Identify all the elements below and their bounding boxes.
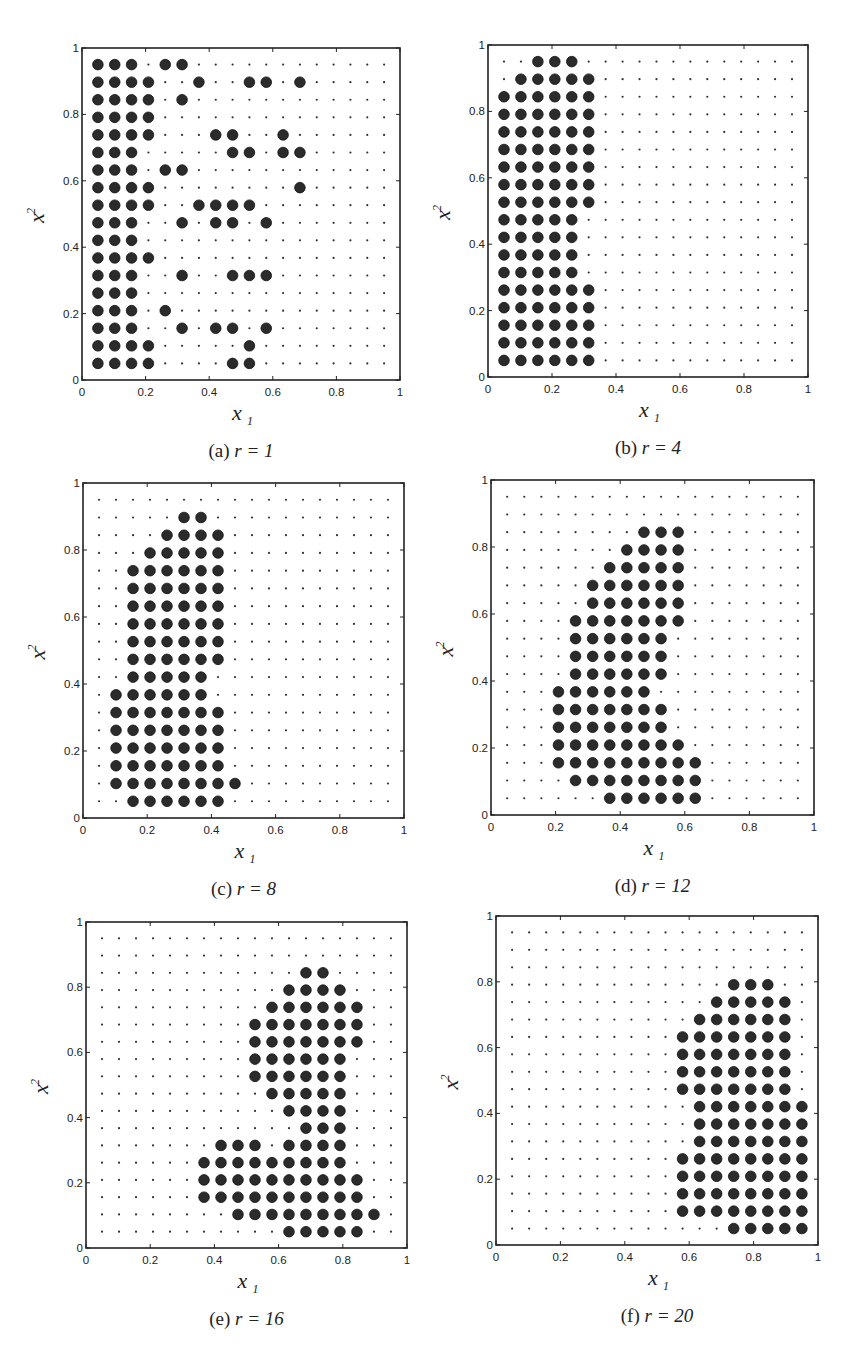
filled-point xyxy=(728,1032,739,1043)
filled-point xyxy=(763,1136,774,1147)
svg-text:1: 1 xyxy=(663,1279,669,1293)
filled-point xyxy=(797,1223,808,1234)
filled-point xyxy=(728,1066,739,1077)
x-tick-label: 0.8 xyxy=(746,1251,762,1263)
filled-point xyxy=(711,1136,722,1147)
caption-letter: (f) xyxy=(621,1305,645,1326)
filled-point xyxy=(763,1101,774,1112)
filled-point xyxy=(677,1206,688,1217)
filled-point xyxy=(763,1032,774,1043)
filled-point xyxy=(694,1171,705,1182)
filled-point xyxy=(711,1188,722,1199)
filled-point xyxy=(780,1171,791,1182)
filled-point xyxy=(745,1154,756,1165)
x-tick-label: 0.4 xyxy=(617,1251,634,1263)
filled-point xyxy=(728,1119,739,1130)
filled-point xyxy=(711,1171,722,1182)
filled-point xyxy=(745,1206,756,1217)
filled-point xyxy=(694,1154,705,1165)
x-tick-label: 0 xyxy=(493,1251,499,1263)
filled-point xyxy=(728,979,739,990)
filled-point xyxy=(780,997,791,1008)
filled-point xyxy=(780,1188,791,1199)
filled-point xyxy=(797,1136,808,1147)
filled-point xyxy=(711,1049,722,1060)
filled-point xyxy=(694,1049,705,1060)
y-tick-label: 1 xyxy=(487,910,493,922)
filled-point xyxy=(694,1136,705,1147)
filled-point xyxy=(745,1171,756,1182)
filled-point xyxy=(745,1066,756,1077)
filled-point xyxy=(763,1206,774,1217)
filled-point xyxy=(694,1101,705,1112)
filled-point xyxy=(780,1154,791,1165)
filled-point xyxy=(797,1154,808,1165)
filled-point xyxy=(745,1032,756,1043)
filled-point xyxy=(677,1049,688,1060)
filled-point xyxy=(780,1049,791,1060)
filled-point xyxy=(763,1014,774,1025)
filled-point xyxy=(677,1032,688,1043)
filled-point xyxy=(763,979,774,990)
filled-point xyxy=(677,1154,688,1165)
filled-point xyxy=(711,1119,722,1130)
filled-point xyxy=(780,1136,791,1147)
filled-point xyxy=(711,1206,722,1217)
filled-point xyxy=(711,997,722,1008)
filled-point xyxy=(728,1223,739,1234)
filled-point xyxy=(677,1171,688,1182)
x-tick-label: 0.6 xyxy=(681,1251,697,1263)
filled-point xyxy=(745,1223,756,1234)
filled-point xyxy=(780,1119,791,1130)
filled-point xyxy=(728,1014,739,1025)
y-tick-label: 0.4 xyxy=(477,1107,494,1119)
filled-point xyxy=(745,1014,756,1025)
filled-point xyxy=(677,1188,688,1199)
filled-point xyxy=(728,1154,739,1165)
filled-point xyxy=(745,997,756,1008)
filled-point xyxy=(797,1171,808,1182)
filled-point xyxy=(694,1188,705,1199)
filled-point xyxy=(745,1101,756,1112)
filled-point xyxy=(780,1101,791,1112)
filled-point xyxy=(694,1084,705,1095)
filled-point xyxy=(763,1154,774,1165)
filled-point xyxy=(763,1084,774,1095)
filled-point xyxy=(728,1136,739,1147)
filled-point xyxy=(763,1066,774,1077)
filled-point xyxy=(728,1206,739,1217)
filled-point xyxy=(780,1206,791,1217)
filled-point xyxy=(780,1032,791,1043)
filled-point xyxy=(677,1066,688,1077)
filled-point xyxy=(745,1084,756,1095)
filled-point xyxy=(677,1084,688,1095)
filled-point xyxy=(728,1101,739,1112)
x-axis-label: x xyxy=(647,1265,658,1290)
filled-point xyxy=(797,1101,808,1112)
filled-point xyxy=(728,1084,739,1095)
y-tick-label: 0.2 xyxy=(477,1173,493,1185)
filled-point xyxy=(694,1066,705,1077)
y-tick-label: 0 xyxy=(487,1239,493,1251)
filled-point xyxy=(745,1119,756,1130)
filled-point xyxy=(711,1101,722,1112)
filled-point xyxy=(745,1188,756,1199)
filled-point xyxy=(728,1188,739,1199)
filled-point xyxy=(745,1049,756,1060)
filled-point xyxy=(763,1188,774,1199)
filled-point xyxy=(797,1188,808,1199)
filled-point xyxy=(745,1136,756,1147)
filled-point xyxy=(728,1171,739,1182)
filled-point xyxy=(780,1014,791,1025)
filled-point xyxy=(711,1032,722,1043)
caption-expression: r = 20 xyxy=(645,1305,694,1326)
svg-text:2: 2 xyxy=(438,1075,452,1081)
filled-point xyxy=(728,1049,739,1060)
filled-point xyxy=(745,979,756,990)
filled-point xyxy=(694,1119,705,1130)
filled-point xyxy=(780,1066,791,1077)
filled-point xyxy=(763,1049,774,1060)
filled-point xyxy=(694,1206,705,1217)
filled-point xyxy=(711,1014,722,1025)
y-tick-label: 0.8 xyxy=(477,976,493,988)
